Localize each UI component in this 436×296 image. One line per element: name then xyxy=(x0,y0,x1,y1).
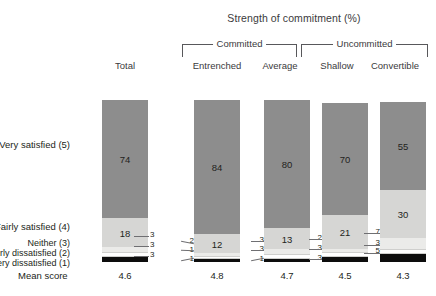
leader-total-2 xyxy=(134,246,149,247)
callout-shallow-very-dissatisfied: 3 xyxy=(318,254,322,262)
column-header-entrenched: Entrenched xyxy=(186,60,248,71)
value-convertible-fairly-satisfied: 30 xyxy=(380,209,426,220)
callout-convertible-neither: 7 xyxy=(376,228,380,236)
leader-average-1 xyxy=(251,241,264,242)
leader-convertible-2 xyxy=(364,245,380,246)
callout-shallow-fairly-dissatisfied: 3 xyxy=(318,244,322,252)
mean-convertible: 4.3 xyxy=(380,270,426,281)
leader-average-2 xyxy=(251,250,264,251)
bar-entrenched: 84 12 xyxy=(194,100,240,262)
mean-total: 4.6 xyxy=(102,270,148,281)
segment-total-very-dissatisfied xyxy=(102,257,148,262)
bracket-uncommitted-label: Uncommitted xyxy=(333,38,397,49)
segment-convertible-very-dissatisfied xyxy=(380,254,426,262)
column-header-average: Average xyxy=(249,60,311,71)
callout-total-neither: 3 xyxy=(150,231,154,239)
row-label-very-dissatisfied: Very dissatisfied (1) xyxy=(0,259,70,268)
leader-shallow-2 xyxy=(309,249,322,250)
leader-shallow-1 xyxy=(309,239,322,240)
mean-shallow: 4.5 xyxy=(322,270,368,281)
row-label-neither: Neither (3) xyxy=(27,239,70,248)
callout-shallow-neither: 2 xyxy=(318,234,322,242)
row-label-very-satisfied: Very satisfied (5) xyxy=(0,140,70,150)
segment-total-fairly-satisfied: 18 xyxy=(102,218,148,247)
segment-shallow-very-satisfied: 70 xyxy=(322,103,368,215)
bar-convertible: 55 30 xyxy=(380,102,426,262)
callout-average-neither: 3 xyxy=(260,236,264,244)
segment-total-very-satisfied: 74 xyxy=(102,100,148,218)
value-entrenched-very-satisfied: 84 xyxy=(194,162,240,173)
mean-entrenched: 4.8 xyxy=(194,270,240,281)
column-header-convertible: Convertible xyxy=(356,60,434,71)
row-label-fairly-dissatisfied: Fairly dissatisfied (2) xyxy=(0,249,70,258)
row-label-fairly-satisfied: Fairly satisfied (4) xyxy=(0,222,70,232)
leader-convertible-3 xyxy=(364,253,380,254)
mean-score-label: Mean score xyxy=(18,270,68,281)
bar-total: 74 18 xyxy=(102,100,148,262)
segment-convertible-neither xyxy=(380,238,426,249)
bracket-uncommitted: Uncommitted xyxy=(301,44,428,57)
callout-total-very-dissatisfied: 3 xyxy=(150,251,154,259)
value-total-very-satisfied: 74 xyxy=(102,154,148,165)
segment-convertible-fairly-satisfied: 30 xyxy=(380,190,426,238)
value-shallow-very-satisfied: 70 xyxy=(322,154,368,165)
value-entrenched-fairly-satisfied: 12 xyxy=(194,238,240,249)
callout-total-fairly-dissatisfied: 3 xyxy=(150,241,154,249)
segment-average-very-satisfied: 80 xyxy=(264,100,310,228)
bracket-committed-label: Committed xyxy=(213,38,267,49)
callout-average-fairly-dissatisfied: 3 xyxy=(260,245,264,253)
chart-title: Strength of commitment (%) xyxy=(204,12,384,24)
bracket-committed: Committed xyxy=(182,44,297,57)
leader-shallow-3 xyxy=(309,259,322,260)
column-header-total: Total xyxy=(102,60,148,71)
value-average-very-satisfied: 80 xyxy=(264,159,310,170)
stacked-bar-chart: Strength of commitment (%) Committed Unc… xyxy=(0,0,436,296)
leader-total-3 xyxy=(134,256,149,257)
leader-convertible-1 xyxy=(364,233,380,234)
value-convertible-very-satisfied: 55 xyxy=(380,141,426,152)
leader-total-1 xyxy=(134,236,149,237)
segment-convertible-very-satisfied: 55 xyxy=(380,102,426,190)
segment-entrenched-very-dissatisfied xyxy=(194,259,240,262)
segment-entrenched-very-satisfied: 84 xyxy=(194,100,240,234)
segment-entrenched-fairly-satisfied: 12 xyxy=(194,234,240,253)
mean-average: 4.7 xyxy=(264,270,310,281)
